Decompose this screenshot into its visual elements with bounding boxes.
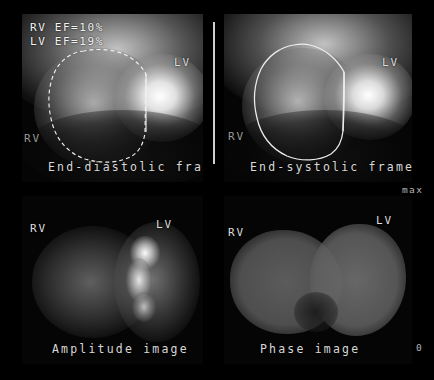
caption-end-systolic: End-systolic frame (250, 160, 412, 174)
septal-phase-notch (294, 292, 338, 332)
lv-label-es: LV (382, 56, 399, 69)
end-diastolic-image: RV EF=10% LV EF=19% LV RV End-diastolic … (22, 14, 203, 182)
lv-label-ed: LV (174, 56, 191, 69)
lv-phase-region (310, 224, 406, 336)
lv-label-amplitude: LV (156, 218, 173, 231)
inferior-attenuation (224, 110, 412, 182)
rv-amplitude-region (32, 226, 154, 338)
rv-label-es: RV (228, 130, 245, 143)
panel-divider (213, 22, 215, 164)
caption-end-diastolic: End-diastolic frame (48, 160, 203, 174)
caption-phase: Phase image (260, 342, 360, 356)
lv-amplitude-hotspot-inferior (132, 292, 156, 322)
inferior-attenuation (22, 110, 203, 182)
rv-label-amplitude: RV (30, 222, 47, 235)
scale-max-label: max (402, 184, 423, 195)
lv-ef-label: LV EF=19% (30, 35, 104, 48)
lv-amplitude-hotspot-superior (130, 236, 160, 270)
lv-label-phase: LV (376, 214, 393, 227)
lv-blood-pool (114, 54, 203, 142)
rv-label-ed: RV (24, 132, 41, 145)
rv-blood-pool (242, 48, 364, 164)
lv-amplitude-hotspot-lateral (126, 258, 152, 302)
rv-label-phase: RV (228, 226, 245, 239)
rv-blood-pool (34, 48, 164, 168)
scale-min-label: 0 (416, 342, 423, 353)
gated-blood-pool-viewer: RV EF=10% LV EF=19% LV RV End-diastolic … (0, 0, 434, 380)
lv-amplitude-region (114, 222, 200, 342)
panel-end-systolic[interactable]: LV RV End-systolic frame (224, 14, 412, 182)
rv-phase-region (230, 230, 342, 334)
caption-amplitude: Amplitude image (52, 342, 189, 356)
amplitude-image: RV LV Amplitude image (22, 196, 203, 364)
rv-roi-contour-ed (22, 14, 203, 182)
panel-amplitude[interactable]: RV LV Amplitude image (22, 196, 203, 364)
rv-roi-contour-es (224, 14, 412, 182)
lv-blood-pool (324, 54, 412, 140)
phase-image: RV LV Phase image (224, 196, 412, 364)
panel-phase[interactable]: RV LV Phase image (224, 196, 412, 364)
rv-ef-label: RV EF=10% (30, 21, 104, 34)
end-systolic-image: LV RV End-systolic frame (224, 14, 412, 182)
background-activity (224, 14, 412, 119)
background-activity (22, 14, 203, 124)
panel-end-diastolic[interactable]: RV EF=10% LV EF=19% LV RV End-diastolic … (22, 14, 203, 182)
